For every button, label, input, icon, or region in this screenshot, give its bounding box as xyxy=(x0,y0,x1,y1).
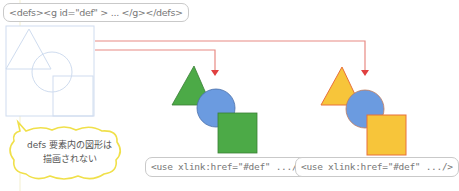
connector-to-instance-2 xyxy=(95,41,365,72)
square-icon xyxy=(218,113,257,153)
use-instance-1 xyxy=(172,66,257,153)
defs-code-label: <defs><g id="def" > ... </g></defs> xyxy=(3,3,189,22)
arrow-down-icon xyxy=(211,70,219,76)
arrow-down-icon xyxy=(361,70,369,76)
use-instance-2 xyxy=(321,67,406,155)
callout-line-1: defs 要素内の図形は xyxy=(22,138,117,152)
connector-to-instance-1 xyxy=(95,50,215,72)
callout-text: defs 要素内の図形は 描画されない xyxy=(22,138,117,166)
defs-ghost-group xyxy=(6,26,94,116)
callout-line-2: 描画されない xyxy=(22,152,117,166)
ghost-frame xyxy=(6,26,94,116)
use-code-label-1: <use xlink:href="#def" .../> xyxy=(145,157,309,177)
use-code-label-2: <use xlink:href="#def" .../> xyxy=(295,157,459,177)
connectors xyxy=(95,41,365,72)
square-icon xyxy=(367,115,406,155)
